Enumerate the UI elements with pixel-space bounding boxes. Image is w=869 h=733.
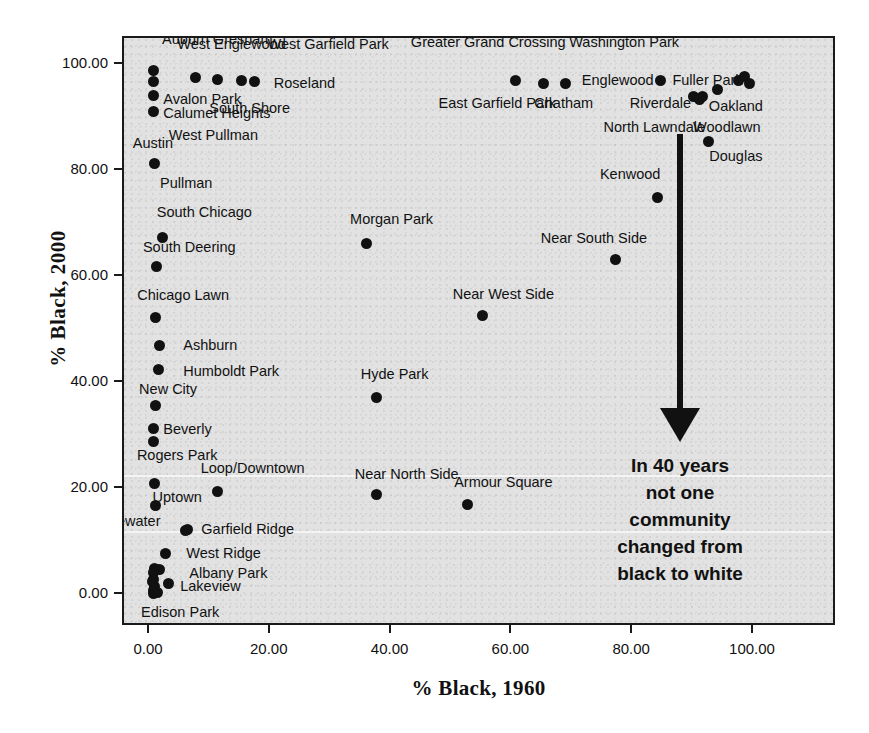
data-point [703,136,714,147]
data-point [148,90,159,101]
point-label: South Chicago [157,205,252,220]
x-axis-tick-label: 100.00 [702,640,802,657]
y-axis-tick-label: 20.00 [14,478,108,495]
data-point [190,72,201,83]
point-label: West Pullman [169,128,258,143]
y-axis-tick-label: 80.00 [14,160,108,177]
x-axis-tick-label: 20.00 [219,640,319,657]
point-label: Near North Side [355,467,459,482]
data-point [148,65,159,76]
data-point [371,489,382,500]
x-axis-title: % Black, 1960 [122,676,835,701]
annotation-text: In 40 years not one community changed fr… [560,453,800,588]
x-axis-tick-mark [751,625,753,633]
data-point [236,75,247,86]
data-point [652,192,663,203]
data-point [147,576,158,587]
x-axis-tick-mark [268,625,270,633]
point-label: Ashburn [183,338,237,353]
point-label: Near West Side [453,287,554,302]
data-point [610,254,621,265]
x-axis-tick-label: 80.00 [581,640,681,657]
point-label: Humboldt Park [183,364,279,379]
x-axis-tick-mark [389,625,391,633]
data-point [371,392,382,403]
point-label: Uptown [153,490,202,505]
data-point [148,76,159,87]
data-point [163,578,174,589]
data-point [560,78,571,89]
data-point [149,158,160,169]
point-label: Edison Park [141,605,219,620]
data-point [148,423,159,434]
point-label: Near South Side [541,231,647,246]
x-axis-tick-mark [509,625,511,633]
data-point [249,76,260,87]
point-label: Avalon Park [163,92,241,107]
data-point [150,312,161,323]
x-axis-tick-mark [630,625,632,633]
y-axis-tick-mark [114,168,122,170]
point-label: Morgan Park [350,212,433,227]
point-label: Englewood [582,73,654,88]
data-point [180,525,191,536]
point-label: Loop/Downtown [201,461,305,476]
point-label: Washington Park [569,36,679,49]
data-point [510,75,521,86]
y-axis-tick-label: 40.00 [14,372,108,389]
point-label: South Deering [143,240,236,255]
point-label: Calumet Heights [163,106,270,121]
y-axis-tick-label: 100.00 [14,54,108,71]
annotation-arrow-head [660,408,700,442]
point-label: Lakeview [180,579,240,594]
point-label: Armour Square [454,475,552,490]
data-point [462,499,473,510]
point-label: New City [139,382,197,397]
point-label: Chatham [534,96,593,111]
point-label: North Lawndale [604,120,706,135]
scatter-plot-figure: % Black, 2000 % Black, 1960 0.0020.0040.… [0,0,869,733]
point-label: Douglas [709,149,762,164]
y-axis-tick-label: 60.00 [14,266,108,283]
point-label: Greater Grand Crossing [411,36,566,49]
data-point [148,106,159,117]
data-point [151,261,162,272]
data-point [212,74,223,85]
data-point [154,340,165,351]
data-point [149,478,160,489]
point-label: Hyde Park [361,367,429,382]
point-label: Chicago Lawn [137,288,229,303]
point-label: West Garfield Park [267,37,388,52]
y-axis-tick-mark [114,380,122,382]
data-point [152,587,163,598]
x-axis-tick-mark [147,625,149,633]
data-point [538,78,549,89]
point-label: Kenwood [600,167,660,182]
point-label: West Ridge [186,546,261,561]
data-point [694,94,705,105]
data-point [154,564,165,575]
y-axis-tick-mark [114,62,122,64]
data-point [477,310,488,321]
point-label: Fuller Park [672,73,742,88]
point-label: Pullman [160,176,212,191]
point-label: Austin [133,136,173,151]
point-label: Oakland [709,99,763,114]
point-label: Woodlawn [693,120,760,135]
y-axis-tick-label: 0.00 [14,584,108,601]
y-axis-tick-mark [114,486,122,488]
y-axis-tick-mark [114,274,122,276]
point-label: Beverly [163,422,211,437]
point-label: Roseland [274,76,335,91]
data-point [655,75,666,86]
plot-area: Auburn GreshamWest EnglewoodWest Garfiel… [122,36,835,625]
point-label: Riverdale [630,96,691,111]
data-point [160,548,171,559]
point-label: Garfield Ridge [201,522,294,537]
data-point [153,364,164,375]
y-axis-tick-mark [114,592,122,594]
data-point [150,400,161,411]
data-point [361,238,372,249]
point-label: Edgewater [122,514,160,529]
annotation-arrow-shaft [677,134,683,412]
